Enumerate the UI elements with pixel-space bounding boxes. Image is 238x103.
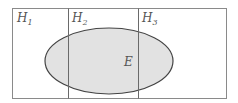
event-ellipse (45, 28, 173, 94)
event-label-e: E (123, 55, 133, 69)
partition-diagram: H1 H2 H3 E (0, 0, 238, 103)
